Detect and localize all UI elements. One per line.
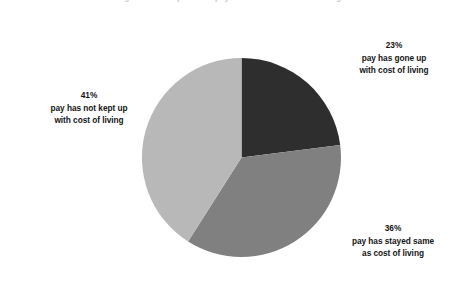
pie-chart-svg	[141, 37, 341, 278]
pie-label-line1: pay has gone up	[333, 52, 455, 65]
pie-label-line2: with cost of living	[20, 114, 158, 127]
pie-chart-page: Figure 4. Perceptions of pay relative to…	[0, 0, 458, 285]
pie-label-percent: 36%	[330, 222, 456, 235]
pie-label-pay-stayed-same: 36% pay has stayed same as cost of livin…	[330, 222, 456, 260]
pie-label-line2: with cost of living	[333, 64, 455, 77]
cutoff-header-text: Figure 4. Perceptions of pay relative to…	[0, 0, 458, 2]
pie-slice-pay-gone-up[interactable]	[242, 58, 341, 158]
pie-label-percent: 23%	[333, 39, 455, 52]
pie-label-line2: as cost of living	[330, 247, 456, 260]
pie-label-percent: 41%	[20, 89, 158, 102]
pie-label-line1: pay has not kept up	[20, 102, 158, 115]
pie-label-pay-gone-up: 23% pay has gone up with cost of living	[333, 39, 455, 77]
pie-label-pay-not-kept-up: 41% pay has not kept up with cost of liv…	[20, 89, 158, 127]
pie-label-line1: pay has stayed same	[330, 235, 456, 248]
pie-chart	[141, 37, 341, 278]
